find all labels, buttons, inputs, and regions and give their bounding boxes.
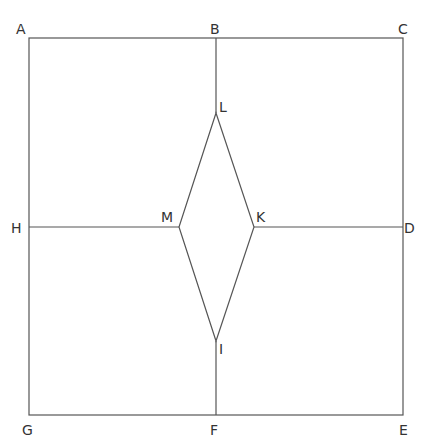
label-I: I: [219, 341, 223, 357]
label-M: M: [161, 209, 173, 225]
label-B: B: [210, 21, 220, 37]
geometry-diagram: A B C D E F G H L M K I: [0, 0, 424, 440]
label-C: C: [398, 21, 408, 37]
rhombus-LKIM: [179, 113, 254, 341]
label-D: D: [404, 220, 415, 236]
label-A: A: [16, 21, 26, 37]
label-L: L: [219, 99, 227, 115]
label-E: E: [399, 422, 408, 438]
label-F: F: [210, 422, 218, 438]
label-H: H: [11, 220, 22, 236]
connector-lines: [29, 38, 403, 415]
label-K: K: [256, 209, 266, 225]
label-G: G: [22, 422, 33, 438]
